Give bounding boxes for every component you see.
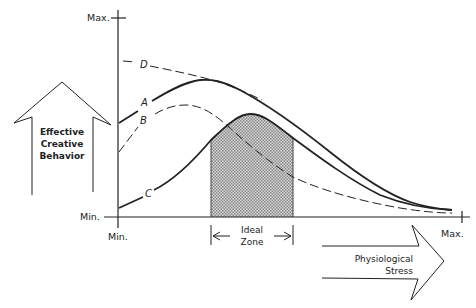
stress-creativity-diagram: Max. Min. Min. Max. D A B C Ideal Zone E…	[0, 0, 476, 308]
curve-b-label: B	[140, 115, 147, 126]
x-arrow-label-line1: Physiological	[355, 254, 413, 264]
y-arrow-label-line3: Behavior	[39, 151, 85, 161]
y-arrow-label-line2: Creative	[41, 139, 84, 149]
curve-a-label: A	[140, 97, 148, 108]
curve-c-label: C	[145, 188, 152, 199]
y-arrow-label-line1: Effective	[40, 127, 84, 137]
curve-d-label: D	[140, 59, 148, 70]
x-axis-min-label: Min.	[108, 231, 128, 242]
y-axis-min-label: Min.	[80, 211, 100, 222]
x-axis-max-label: Max.	[441, 228, 464, 239]
ideal-zone-label-line1: Ideal	[241, 225, 263, 235]
y-axis-max-label: Max.	[87, 12, 110, 23]
ideal-zone-shade	[118, 114, 293, 217]
ideal-zone-label-line2: Zone	[241, 237, 264, 247]
x-arrow-label-line2: Stress	[385, 266, 413, 276]
